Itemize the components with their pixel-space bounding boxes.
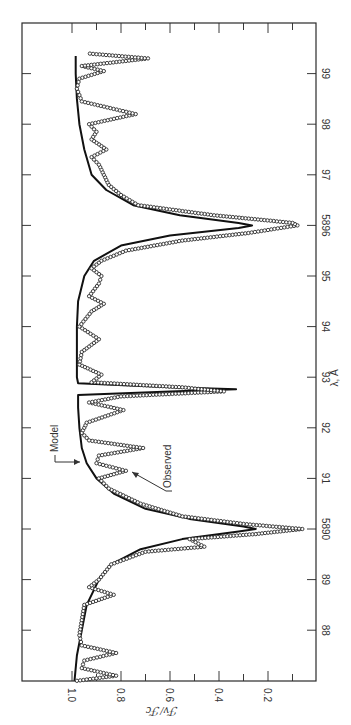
ratio-tick-label: 1.0 (66, 688, 77, 702)
lambda-tick-label: 5890 (320, 518, 331, 541)
observed-point (75, 87, 78, 90)
observed-point (95, 677, 98, 680)
observed-point (266, 228, 269, 231)
axis-ticks (22, 23, 316, 681)
x-axis-title: λ, Å (328, 369, 340, 387)
observed-point (79, 640, 82, 643)
model-annotation: Model (49, 425, 60, 452)
observed-point (253, 230, 256, 233)
lambda-tick-label: 88 (320, 625, 331, 637)
observed-point (276, 227, 279, 230)
observed-point (81, 663, 84, 666)
observed-point (80, 666, 83, 669)
observed-point (88, 52, 91, 55)
ratio-tick-label: 0.6 (164, 688, 175, 702)
observed-point (76, 84, 79, 87)
model-arrow-icon (74, 459, 80, 465)
observed-point (247, 231, 250, 234)
observed-annotation: Observed (162, 445, 173, 488)
y-axis-title: ℱν/ℱc (145, 704, 178, 718)
model-curve (75, 56, 256, 681)
observed-point (283, 226, 286, 229)
lambda-tick-label: 98 (320, 119, 331, 131)
lambda-tick-label: 92 (320, 422, 331, 434)
observed-point (82, 678, 85, 681)
lambda-tick-label: 97 (320, 169, 331, 181)
spectrum-chart: 88895890919293949558969798991.00.80.60.4… (0, 0, 351, 725)
observed-point (273, 227, 276, 230)
observed-point (257, 230, 260, 233)
observed-point (286, 225, 289, 228)
plot-frame (22, 23, 316, 681)
observed-point (97, 282, 100, 285)
ratio-tick-label: 0.2 (262, 688, 273, 702)
observed-point (95, 462, 98, 465)
lambda-tick-label: 94 (320, 321, 331, 333)
observed-points (75, 52, 304, 683)
lambda-tick-label: 91 (320, 473, 331, 485)
observed-point (99, 278, 102, 281)
observed-point (263, 229, 266, 232)
observed-point (96, 458, 99, 461)
lambda-tick-label: 95 (320, 270, 331, 282)
lambda-tick-label: 99 (320, 68, 331, 80)
ratio-tick-label: 0.8 (115, 688, 126, 702)
lambda-tick-label: 5896 (320, 214, 331, 237)
lambda-tick-label: 89 (320, 574, 331, 586)
observed-point (80, 644, 83, 647)
ratio-tick-label: 0.4 (213, 688, 224, 702)
